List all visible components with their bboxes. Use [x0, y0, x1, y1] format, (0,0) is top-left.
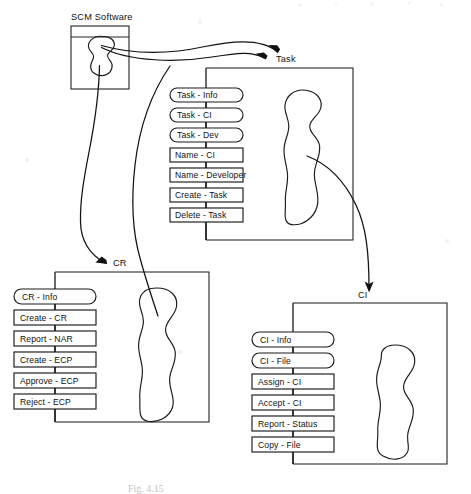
ci-op-4[interactable]: Report - Status [252, 416, 334, 431]
cr-op-0-label: CR - Info [22, 292, 57, 302]
ci-op-1[interactable]: CI - File [252, 353, 334, 368]
task-op-2-label: Task - Dev [177, 130, 219, 140]
cr-op-5-label: Reject - ECP [20, 397, 71, 407]
ci-op-3-label: Accept - CI [258, 398, 302, 408]
task-op-1-label: Task - CI [177, 110, 212, 120]
connector-task-area-to-cr-blob [133, 66, 170, 316]
cr-op-4-label: Approve - ECP [20, 376, 79, 386]
ci-op-0-label: CI - Info [260, 335, 292, 345]
task-op-0[interactable]: Task - Info [170, 88, 243, 102]
ci-op-0[interactable]: CI - Info [252, 332, 334, 347]
cr-op-1[interactable]: Create - CR [14, 310, 96, 325]
ci-module-title: CI [358, 290, 368, 300]
cr-operations: CR - Info Create - CR Report - NAR Creat… [14, 289, 96, 422]
task-op-0-label: Task - Info [177, 90, 218, 100]
figure-caption: Fig. 4.15 [128, 483, 164, 494]
connector-task-to-ci [307, 156, 374, 292]
task-blob [284, 90, 321, 225]
task-op-1[interactable]: Task - CI [170, 108, 243, 122]
ci-op-4-label: Report - Status [258, 419, 317, 429]
task-op-4-label: Name - Developer [175, 170, 246, 180]
scm-software-title: SCM Software [71, 12, 133, 22]
cr-blob [139, 288, 177, 422]
task-op-3-label: Name - CI [175, 150, 215, 160]
cr-op-5[interactable]: Reject - ECP [14, 394, 96, 409]
connector-scm-to-task-inner [102, 48, 268, 61]
ci-op-5-label: Copy - File [258, 440, 301, 450]
diagram-canvas: SCM Software [0, 0, 471, 494]
ci-operations: CI - Info CI - File Assign - CI Accept -… [252, 332, 334, 464]
cr-op-3-label: Create - ECP [20, 355, 72, 365]
ci-op-2-label: Assign - CI [258, 377, 301, 387]
task-op-5-label: Create - Task [175, 190, 228, 200]
ci-op-5[interactable]: Copy - File [252, 437, 334, 452]
task-op-6-label: Delete - Task [175, 210, 227, 220]
cr-op-4[interactable]: Approve - ECP [14, 373, 96, 388]
figure-caption-text: Fig. 4.15 [128, 483, 164, 494]
task-module[interactable]: Task Task - Info Task - CI [170, 54, 353, 240]
cr-op-2[interactable]: Report - NAR [14, 331, 96, 346]
task-module-title: Task [276, 54, 296, 64]
structure-chart-svg: SCM Software [0, 0, 471, 494]
task-op-5[interactable]: Create - Task [170, 188, 243, 202]
task-op-6[interactable]: Delete - Task [170, 208, 243, 222]
task-op-3[interactable]: Name - CI [170, 148, 243, 162]
connector-scm-to-task-outer [102, 42, 281, 54]
scm-software-box [71, 26, 129, 89]
cr-op-2-label: Report - NAR [20, 334, 73, 344]
cr-op-0[interactable]: CR - Info [14, 289, 96, 304]
cr-op-3[interactable]: Create - ECP [14, 352, 96, 367]
ci-op-3[interactable]: Accept - CI [252, 395, 334, 410]
ci-blob [377, 345, 415, 459]
cr-module[interactable]: CR CR - Info Create - CR Report - NAR [14, 258, 209, 422]
task-op-4[interactable]: Name - Developer [170, 168, 246, 182]
cr-module-title: CR [113, 258, 127, 268]
task-op-2[interactable]: Task - Dev [170, 128, 243, 142]
connector-scm-to-cr [80, 66, 107, 265]
ci-op-2[interactable]: Assign - CI [252, 374, 334, 389]
ci-module[interactable]: CI CI - Info CI - File Assign - CI [252, 290, 447, 464]
scm-software-blob [88, 36, 114, 75]
ci-op-1-label: CI - File [260, 356, 291, 366]
cr-op-1-label: Create - CR [20, 313, 67, 323]
task-operations: Task - Info Task - CI Task - Dev Name - … [170, 88, 246, 240]
